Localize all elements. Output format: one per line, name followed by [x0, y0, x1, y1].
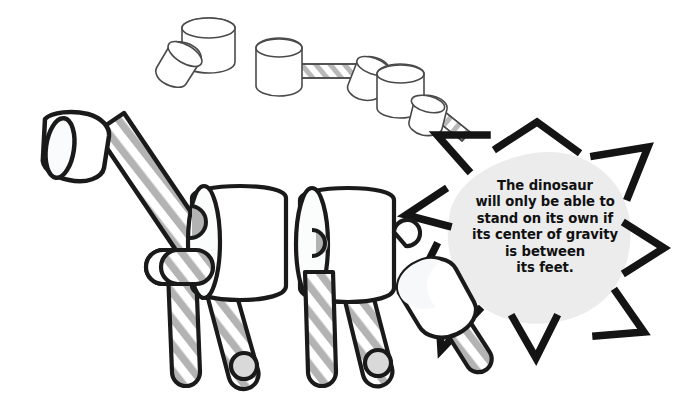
marshmallow-straw-angled-assembly: [377, 64, 470, 141]
striped-straw-horizontal: [300, 64, 358, 78]
top-loose-pieces: [156, 18, 470, 141]
marshmallow-small: [409, 92, 447, 136]
marshmallow-head-cylinder: [42, 112, 109, 181]
shoulder-straw-stub: [190, 206, 206, 238]
illustration-canvas: The dinosaur will only be able to stand …: [0, 0, 674, 414]
hip-straw-stub: [394, 220, 420, 246]
marshmallow-left: [256, 38, 302, 96]
ray-s: [513, 318, 556, 358]
ray-n: [497, 122, 577, 151]
illustration-svg: [0, 0, 674, 414]
ray-e: [626, 224, 664, 272]
callout-blob: [448, 152, 631, 324]
small-marshmallow-arm: [146, 250, 213, 284]
marshmallow-dinosaur: [42, 112, 492, 389]
leg-rear-right: [305, 272, 336, 386]
marshmallow-straw-marshmallow-assembly: [256, 38, 392, 100]
foot-cap: [231, 353, 257, 379]
foot-cap: [365, 350, 391, 376]
